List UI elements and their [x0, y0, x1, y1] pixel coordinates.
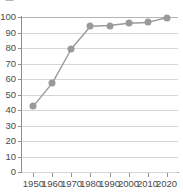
x-tick — [52, 173, 53, 177]
x-tick-label: 2020 — [156, 179, 177, 189]
x-tick-label: 2000 — [118, 179, 139, 189]
y-tick-label: 0 — [11, 167, 16, 177]
data-point — [144, 19, 151, 26]
x-tick — [129, 173, 130, 177]
x-tick — [90, 173, 91, 177]
data-point — [30, 103, 37, 110]
x-tick-label: 1990 — [99, 179, 120, 189]
y-tick-label: 40 — [5, 105, 16, 115]
y-tick-label: 50 — [5, 90, 16, 100]
series-polyline — [33, 18, 166, 106]
gridline — [22, 172, 178, 173]
x-tick — [71, 173, 72, 177]
x-tick-label: 1960 — [42, 179, 63, 189]
series-line — [22, 17, 178, 172]
y-tick-label: 70 — [5, 59, 16, 69]
x-tick-label: 1970 — [61, 179, 82, 189]
x-tick — [167, 173, 168, 177]
line-chart: · ▬ · · · · · 0102030405060708090100 195… — [0, 0, 183, 195]
y-tick-label: 20 — [5, 136, 16, 146]
x-tick-label: 1980 — [80, 179, 101, 189]
y-tick — [18, 172, 22, 173]
x-tick-label: 2010 — [137, 179, 158, 189]
y-tick-label: 10 — [5, 152, 16, 162]
data-point — [106, 22, 113, 29]
plot-area: 0102030405060708090100 19501960197019801… — [22, 17, 178, 172]
data-point — [87, 23, 94, 30]
data-point — [163, 14, 170, 21]
x-tick-label: 1950 — [23, 179, 44, 189]
y-tick-label: 90 — [5, 28, 16, 38]
y-tick-label: 80 — [5, 43, 16, 53]
cropped-top-fragment: · ▬ · · · · · — [0, 0, 183, 7]
cropped-text-fragment: · ▬ · · · · · — [0, 0, 41, 3]
x-tick — [148, 173, 149, 177]
x-tick — [33, 173, 34, 177]
data-point — [125, 20, 132, 27]
data-point — [49, 79, 56, 86]
y-tick-label: 60 — [5, 74, 16, 84]
y-tick-label: 30 — [5, 121, 16, 131]
y-tick-label: 100 — [0, 12, 16, 22]
x-tick — [110, 173, 111, 177]
data-point — [68, 45, 75, 52]
